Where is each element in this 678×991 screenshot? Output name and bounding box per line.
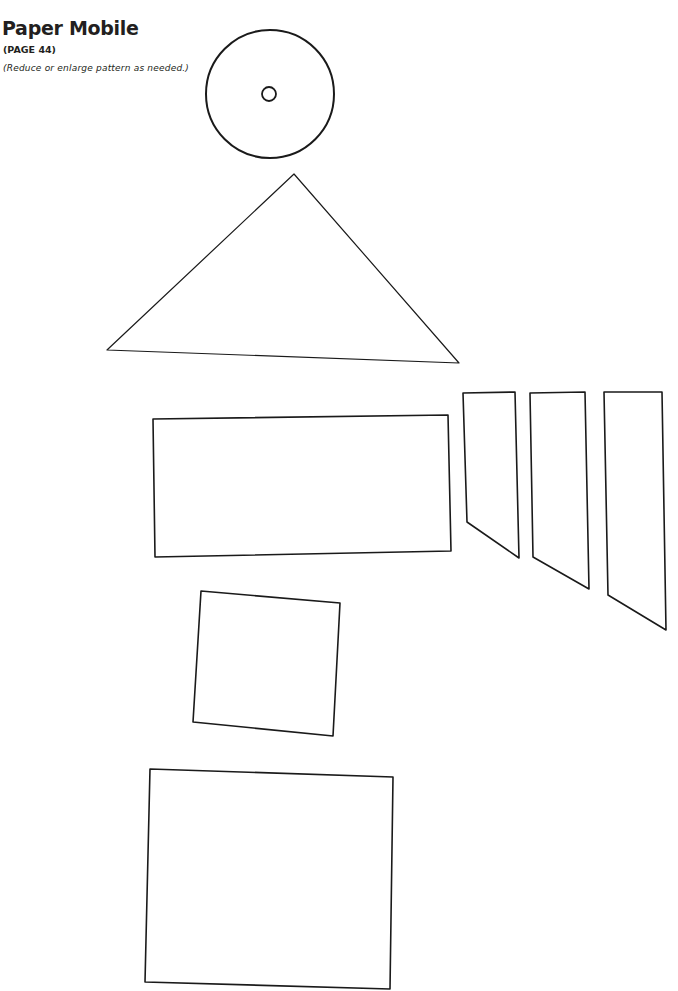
pattern-sheet (0, 0, 678, 991)
trapezoid-pattern-1 (463, 392, 519, 558)
trapezoid-pattern-3 (604, 392, 666, 630)
square-pattern (193, 591, 340, 736)
wide-rectangle-pattern (153, 415, 451, 557)
circle-pattern (206, 30, 334, 158)
trapezoid-pattern-2 (530, 392, 589, 589)
triangle-pattern (107, 174, 459, 363)
large-rectangle-pattern (145, 769, 393, 989)
circle-hole-pattern (262, 87, 276, 101)
